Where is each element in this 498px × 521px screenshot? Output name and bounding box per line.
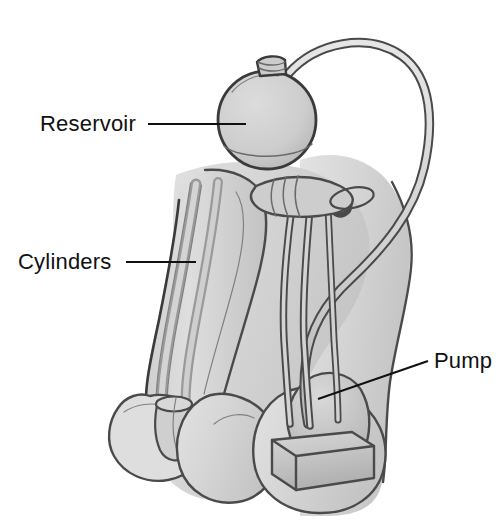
label-reservoir: Reservoir (40, 111, 136, 136)
pump-base (272, 432, 374, 490)
diagram-svg: Reservoir Cylinders Pump (0, 0, 498, 521)
reservoir (218, 71, 316, 169)
label-cylinders: Cylinders (18, 249, 112, 274)
reservoir-neck (257, 56, 286, 76)
label-pump: Pump (434, 348, 492, 373)
illustration-canvas: Reservoir Cylinders Pump (0, 0, 498, 521)
